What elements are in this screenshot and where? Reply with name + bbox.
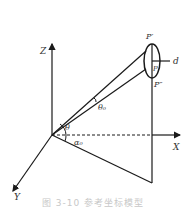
theta0-arc bbox=[94, 98, 96, 102]
ground-projection-line bbox=[52, 135, 152, 183]
z-label: Z bbox=[39, 46, 47, 56]
x-label: X bbox=[172, 142, 180, 152]
d-label: d bbox=[173, 56, 179, 66]
alpha-arc bbox=[65, 135, 66, 141]
p-label: P bbox=[152, 65, 158, 73]
figure-caption: 图 3-10 参考坐标模型 bbox=[0, 196, 186, 209]
alpha0-label: α₀ bbox=[74, 138, 83, 147]
theta-label: θ bbox=[65, 123, 70, 132]
p-double-prime-label: P″ bbox=[153, 80, 162, 89]
theta0-label: θ₀ bbox=[98, 103, 107, 112]
coordinate-diagram: Z X Y P′ P″ P d θ θ₀ α₀ bbox=[0, 0, 186, 210]
p-prime-label: P′ bbox=[145, 32, 153, 41]
y-axis bbox=[13, 135, 52, 191]
